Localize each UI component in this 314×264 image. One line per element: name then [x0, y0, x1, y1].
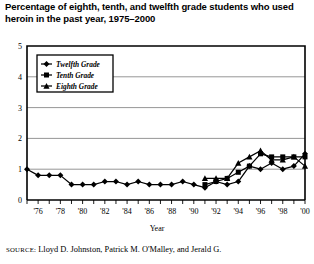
x-tick-label-1976: '76	[33, 207, 42, 214]
legend: Twelfth GradeTenth GradeEighth Grade	[37, 55, 113, 92]
x-tick-label-1986: '86	[145, 207, 154, 214]
data-point-0-12	[157, 182, 163, 188]
data-point-0-0	[24, 166, 30, 172]
source-note: SOURCE: Lloyd D. Johnston, Patrick M. O'…	[6, 245, 312, 254]
data-point-1-0	[202, 182, 207, 187]
x-tick-label-1978: '78	[56, 207, 65, 214]
chart-figure: Percentage of eighth, tenth, and twelfth…	[0, 0, 314, 264]
x-tick-label-1984: '84	[122, 207, 131, 214]
x-tick-label-1998: '98	[278, 207, 287, 214]
y-tick-label-1: 1	[18, 165, 22, 174]
chart-title: Percentage of eighth, tenth, and twelfth…	[5, 1, 309, 25]
data-point-0-18	[224, 182, 230, 188]
data-point-0-9	[124, 182, 130, 188]
data-point-0-21	[258, 166, 264, 172]
x-tick-label-1996: '96	[256, 207, 265, 214]
x-tick-label-1980: '80	[78, 207, 87, 214]
x-tick-label-1988: '88	[167, 207, 176, 214]
data-point-2-5	[257, 148, 263, 154]
x-tick-label-1990: '90	[189, 207, 198, 214]
series-line-2	[205, 151, 305, 179]
data-point-0-7	[102, 179, 108, 185]
line-chart-svg: 012345'76'78'80'82'84'86'88'90'92'94'96'…	[0, 38, 314, 214]
legend-label-0: Twelfth Grade	[56, 60, 101, 69]
x-tick-label-1992: '92	[211, 207, 220, 214]
data-point-0-11	[146, 182, 152, 188]
data-point-0-23	[280, 166, 286, 172]
data-point-1-4	[247, 164, 252, 169]
data-point-0-5	[80, 182, 86, 188]
data-point-1-9	[303, 154, 308, 159]
data-point-1-3	[236, 170, 241, 175]
y-tick-label-5: 5	[18, 42, 22, 51]
legend-label-2: Eighth Grade	[55, 82, 98, 91]
x-axis-title: Year	[0, 224, 314, 233]
x-tick-label-1994: '94	[234, 207, 243, 214]
data-point-0-2	[46, 172, 52, 178]
legend-marker-square	[44, 73, 49, 78]
y-tick-label-2: 2	[18, 134, 22, 143]
legend-label-1: Tenth Grade	[56, 71, 95, 80]
data-point-0-1	[35, 172, 41, 178]
data-point-0-14	[180, 179, 186, 185]
source-text: Lloyd D. Johnston, Patrick M. O'Malley, …	[36, 245, 221, 254]
y-tick-label-4: 4	[18, 73, 22, 82]
x-tick-label-2000: '00	[300, 207, 309, 214]
data-point-0-8	[113, 179, 119, 185]
y-tick-label-3: 3	[18, 104, 22, 113]
data-point-0-15	[191, 182, 197, 188]
source-label: SOURCE:	[6, 246, 36, 253]
series-line-0	[27, 154, 305, 188]
data-point-0-6	[91, 182, 97, 188]
data-point-2-4	[246, 154, 252, 160]
data-point-0-10	[135, 179, 141, 185]
y-tick-label-0: 0	[18, 196, 22, 205]
data-point-0-13	[169, 182, 175, 188]
plot-area: 012345'76'78'80'82'84'86'88'90'92'94'96'…	[0, 38, 314, 214]
series-eighth-grade	[202, 148, 308, 181]
series-twelfth-grade	[24, 151, 308, 191]
x-tick-label-1982: '82	[100, 207, 109, 214]
data-point-2-3	[235, 160, 241, 166]
